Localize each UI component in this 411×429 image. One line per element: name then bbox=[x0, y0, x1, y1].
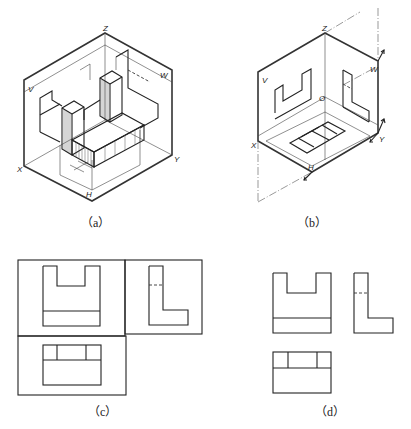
figure-b-unfolding: Z V W O X Y H bbox=[250, 8, 385, 202]
solid-base-front bbox=[94, 125, 144, 167]
side-view bbox=[149, 266, 188, 325]
axis-label-y: Y bbox=[379, 135, 385, 144]
v-projection bbox=[40, 91, 62, 132]
side-view bbox=[354, 273, 393, 333]
axis-label-v: V bbox=[262, 76, 268, 85]
top-view bbox=[273, 352, 331, 393]
axis-label-h: H bbox=[308, 163, 314, 172]
axis-label-v: V bbox=[28, 85, 34, 94]
axis-label-y: Y bbox=[174, 155, 180, 164]
three-view-projection-diagram: Z V W X Y H bbox=[0, 0, 411, 429]
caption-c: （c） bbox=[88, 402, 117, 420]
figure-d-three-views bbox=[273, 273, 393, 393]
axis-label-z: Z bbox=[102, 24, 109, 33]
projection-box-outline bbox=[24, 33, 172, 201]
caption-b: （b） bbox=[297, 213, 327, 231]
axis-label-o: O bbox=[319, 94, 325, 103]
caption-d: （d） bbox=[315, 402, 345, 420]
top-view bbox=[43, 345, 101, 385]
v-plane-frame bbox=[18, 260, 125, 336]
axis-label-x: X bbox=[250, 141, 257, 150]
axis-label-h: H bbox=[86, 190, 92, 199]
v-projection bbox=[275, 69, 311, 119]
axis-label-x: X bbox=[16, 165, 23, 174]
front-view bbox=[43, 266, 100, 326]
axis-label-w: W bbox=[160, 71, 169, 80]
projection-box-outline bbox=[258, 33, 378, 172]
figure-a-isometric: Z V W X Y H bbox=[16, 24, 180, 201]
figure-c-framed-views bbox=[18, 260, 202, 395]
caption-a: （a） bbox=[81, 213, 110, 231]
h-projection bbox=[290, 122, 345, 153]
front-view bbox=[273, 273, 331, 333]
